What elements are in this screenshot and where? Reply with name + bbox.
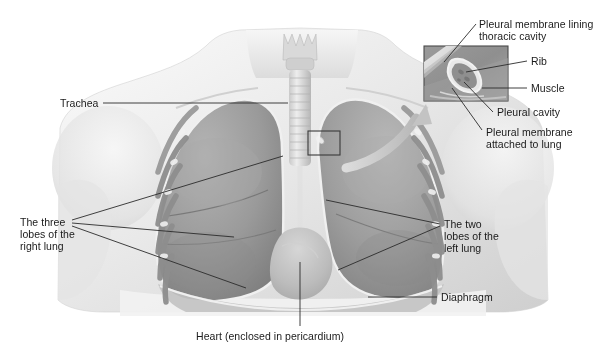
label-trachea: Trachea xyxy=(60,97,98,109)
label-muscle: Muscle xyxy=(531,82,565,94)
heart-pericardium xyxy=(270,227,332,299)
label-pleural-membrane-lining: Pleural membrane lining thoracic cavity xyxy=(479,18,593,42)
label-diaphragm: Diaphragm xyxy=(441,291,493,303)
anatomy-figure: Trachea The three lobes of the right lun… xyxy=(0,0,606,358)
label-rib: Rib xyxy=(531,55,547,67)
label-pleural-membrane-attached: Pleural membrane attached to lung xyxy=(486,126,573,150)
label-three-lobes-right-lung: The three lobes of the right lung xyxy=(20,216,75,253)
label-pleural-cavity: Pleural cavity xyxy=(497,106,560,118)
label-two-lobes-left-lung: The two lobes of the left lung xyxy=(444,218,499,255)
label-heart: Heart (enclosed in pericardium) xyxy=(196,330,344,342)
thoracic-cavity-illustration xyxy=(0,0,606,358)
magnified-chest-wall-inset xyxy=(424,46,508,101)
